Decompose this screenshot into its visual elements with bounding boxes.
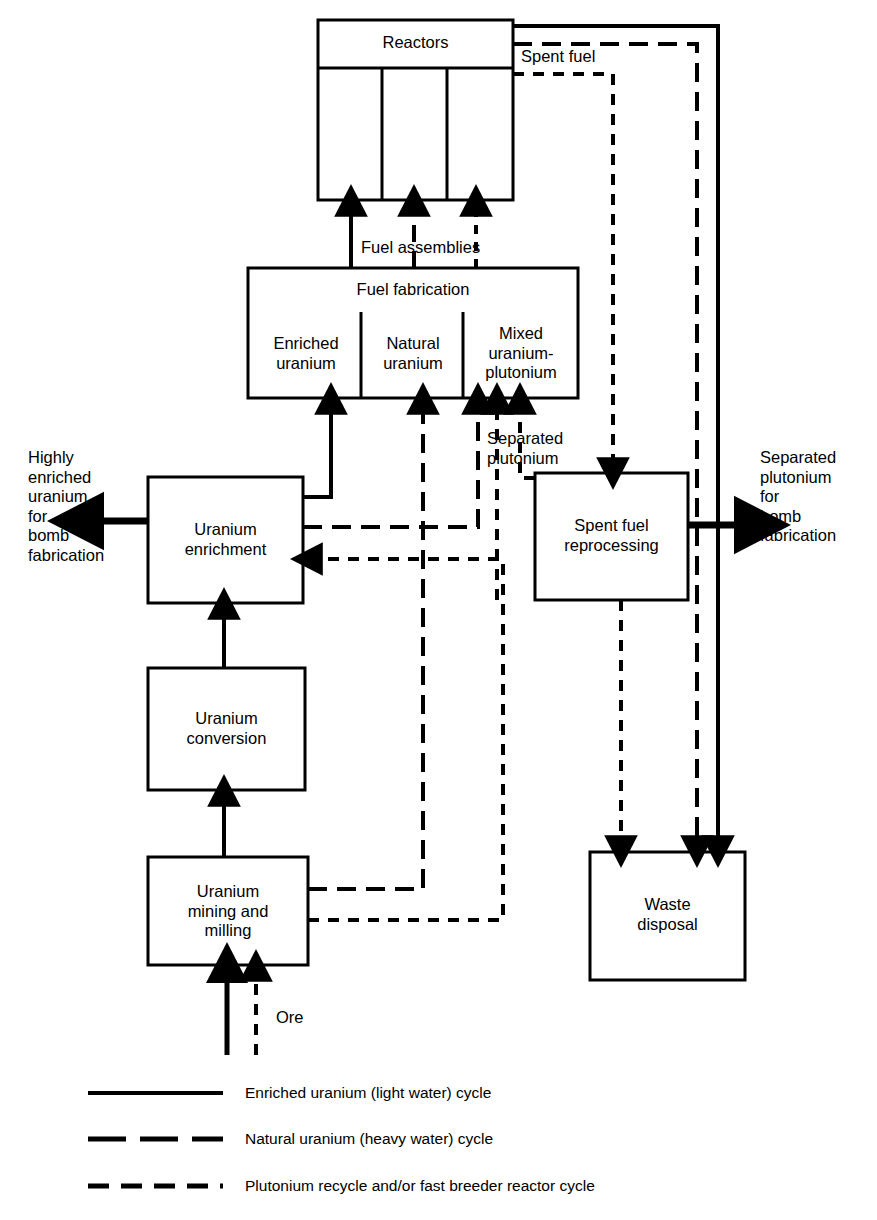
flow-label-separated-plutonium-bomb: Separated plutonium for bomb fabrication [760,448,836,546]
box-label-waste-disposal: Waste disposal [590,895,745,934]
cell-label-enriched-uranium: Enriched uranium [252,334,360,373]
flow-label-ore: Ore [276,1008,304,1028]
flow-label-spent-fuel: Spent fuel [521,47,595,67]
box-label-reactors: Reactors [318,33,513,53]
flow-label-separated-plutonium: Separated plutonium [487,429,563,468]
flow-mining-to-natural-longdash [308,410,423,889]
box-label-uranium-conversion: Uranium conversion [148,709,305,748]
flow-diagram-svg [0,0,877,1220]
box-label-uranium-enrichment: Uranium enrichment [148,520,303,559]
flow-label-fuel-assemblies: Fuel assemblies [361,238,480,258]
flow-mining-to-enrichment-shortdash [308,559,503,920]
legend-label-plutonium-recycle-cycle: Plutonium recycle and/or fast breeder re… [245,1176,595,1195]
diagram-canvas: Reactors Fuel fabrication Enriched urani… [0,0,877,1220]
flow-label-highly-enriched-uranium-bomb: Highly enriched uranium for bomb fabrica… [28,448,104,565]
cell-label-natural-uranium: Natural uranium [363,334,463,373]
cell-label-mixed-uranium-plutonium: Mixed uranium- plutonium [464,324,578,383]
legend-label-enriched-uranium-cycle: Enriched uranium (light water) cycle [245,1083,491,1102]
flow-enriched-uranium-solid [303,410,331,497]
legend-label-natural-uranium-cycle: Natural uranium (heavy water) cycle [245,1129,493,1148]
box-label-uranium-mining: Uranium mining and milling [148,882,308,941]
box-label-spent-fuel-reprocessing: Spent fuel reprocessing [535,516,688,555]
box-label-fuel-fabrication: Fuel fabrication [248,280,578,300]
